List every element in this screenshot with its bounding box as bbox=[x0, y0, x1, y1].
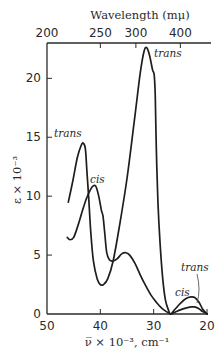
y-axis-title: ε × 10⁻³ bbox=[10, 156, 24, 205]
top-tick-label: 250 bbox=[89, 26, 112, 40]
top-tick-label: 200 bbox=[36, 26, 59, 40]
top-tick-label: 300 bbox=[124, 26, 147, 40]
top-axis-title: Wavelength (mμ) bbox=[90, 8, 189, 22]
y-tick-label: 15 bbox=[26, 130, 41, 144]
x-tick-label: 20 bbox=[199, 319, 214, 333]
y-tick-label: 0 bbox=[33, 307, 41, 321]
x-tick-label: 40 bbox=[93, 319, 108, 333]
y-tick-label: 20 bbox=[26, 71, 41, 85]
curves bbox=[67, 47, 207, 314]
x-tick-label: 30 bbox=[146, 319, 161, 333]
top-tick-label: 400 bbox=[169, 26, 192, 40]
absorption-spectrum-chart: Wavelength (mμ) ν̅ × 10⁻³, cm⁻¹ ε × 10⁻³… bbox=[0, 0, 223, 357]
x-tick-label: 50 bbox=[39, 319, 54, 333]
axes bbox=[47, 43, 211, 314]
y-tick-label: 10 bbox=[26, 189, 41, 203]
cis-label-uv: cis bbox=[90, 173, 105, 185]
trans-label-visible: trans bbox=[181, 261, 209, 273]
y-tick-label: 5 bbox=[33, 248, 41, 262]
cis-label-visible: cis bbox=[175, 286, 190, 298]
trans-label-uv: trans bbox=[54, 127, 82, 139]
trans-label-main: trans bbox=[154, 47, 182, 59]
x-axis-title: ν̅ × 10⁻³, cm⁻¹ bbox=[85, 335, 170, 349]
